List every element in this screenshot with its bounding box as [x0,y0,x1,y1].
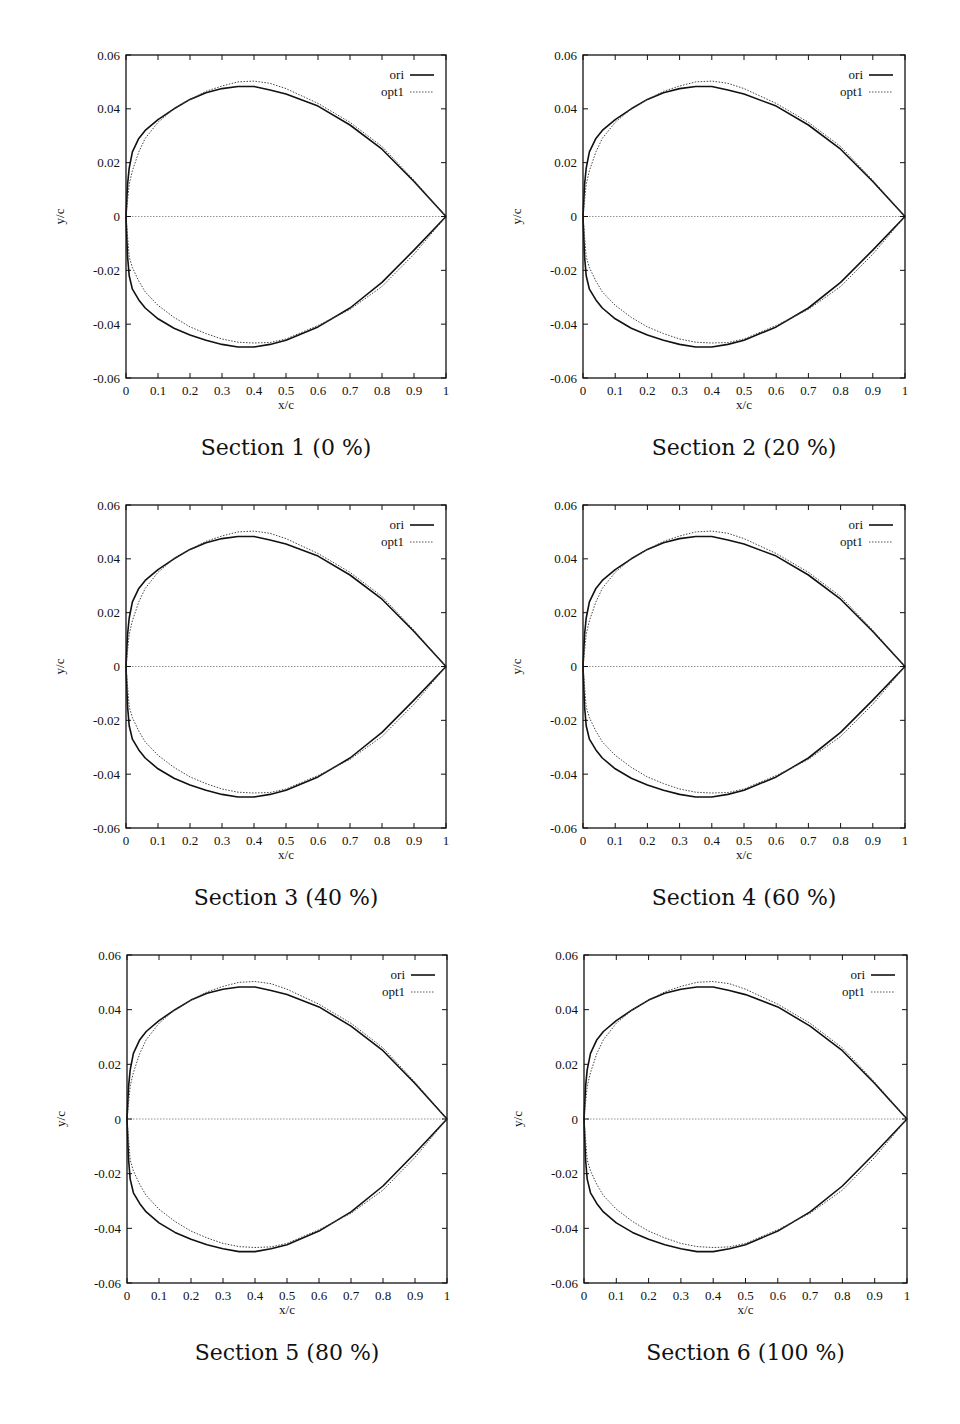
x-axis-label: x/c [279,1302,295,1317]
y-tick-label: -0.06 [550,821,578,836]
y-tick-label: 0.04 [97,551,120,566]
legend-label: ori [390,517,405,532]
x-tick-label: 0.8 [375,1288,391,1303]
legend-label: opt1 [382,984,405,999]
x-tick-label: 0.4 [246,383,263,398]
y-tick-label: -0.04 [93,767,121,782]
legend-label: ori [391,967,406,982]
series-opt1-upper [583,531,905,666]
legend-label: ori [390,67,405,82]
x-tick-label: 0 [580,833,587,848]
chart-caption: Section 1 (0 %) [201,435,372,460]
series-opt1-upper [584,982,907,1120]
x-tick-label: 0.3 [215,1288,231,1303]
chart-panel: 00.10.20.30.40.50.60.70.80.910.060.040.0… [52,48,449,461]
x-tick-label: 0.8 [832,833,848,848]
y-tick-label: 0 [572,1112,579,1127]
y-tick-label: -0.04 [550,767,578,782]
x-tick-label: 0.2 [182,383,198,398]
series-opt1-lower [583,217,905,344]
x-tick-label: 0.9 [865,383,881,398]
y-tick-label: 0.04 [554,101,577,116]
y-tick-label: 0.02 [555,1057,578,1072]
y-tick-label: -0.02 [93,263,120,278]
y-tick-label: -0.06 [550,371,578,386]
series-ori-upper [583,87,905,217]
y-tick-label: 0 [571,209,578,224]
y-axis-label: y/c [509,208,524,224]
y-tick-label: 0.06 [98,948,121,963]
y-tick-label: 0.06 [554,498,577,513]
x-tick-label: 0.7 [800,383,817,398]
x-tick-label: 1 [902,383,909,398]
series-opt1-lower [127,1119,447,1248]
x-tick-label: 0.5 [279,1288,295,1303]
y-tick-label: -0.04 [93,317,121,332]
x-tick-label: 0.2 [182,833,198,848]
series-opt1-upper [126,531,446,666]
x-tick-label: 0.1 [150,383,166,398]
x-tick-label: 0.1 [151,1288,167,1303]
y-tick-label: 0.06 [554,48,577,63]
x-tick-label: 0.4 [704,833,721,848]
x-tick-label: 0.8 [374,833,390,848]
x-tick-label: 0.1 [607,383,623,398]
y-axis-label: y/c [52,208,67,224]
x-tick-label: 0.3 [671,383,687,398]
figure: 00.10.20.30.40.50.60.70.80.910.060.040.0… [0,0,960,1424]
y-tick-label: -0.06 [94,1276,122,1291]
legend-label: ori [851,967,866,982]
chart-panel: 00.10.20.30.40.50.60.70.80.910.060.040.0… [510,948,910,1366]
x-tick-label: 0 [581,1288,588,1303]
series-opt1-upper [126,81,446,216]
y-tick-label: 0.06 [555,948,578,963]
y-tick-label: 0.02 [97,605,120,620]
series-ori-upper [127,987,447,1119]
series-ori-upper [126,87,446,217]
x-tick-label: 0.4 [704,383,721,398]
series-ori-upper [584,987,907,1119]
x-tick-label: 0.6 [768,383,785,398]
y-tick-label: 0.02 [554,605,577,620]
x-tick-label: 0.1 [607,833,623,848]
y-axis-label: y/c [509,658,524,674]
x-tick-label: 0.6 [768,833,785,848]
x-tick-label: 0.8 [834,1288,850,1303]
x-tick-label: 0.3 [671,833,687,848]
x-tick-label: 0.9 [867,1288,883,1303]
x-axis-label: x/c [738,1302,754,1317]
x-tick-label: 0.7 [343,1288,360,1303]
x-tick-label: 0.7 [802,1288,819,1303]
x-tick-label: 0 [123,833,130,848]
x-tick-label: 0.5 [278,833,294,848]
y-tick-label: -0.02 [550,263,577,278]
x-tick-label: 0.9 [406,383,422,398]
y-tick-label: 0.04 [555,1002,578,1017]
x-tick-label: 0.9 [406,833,422,848]
y-axis-label: y/c [52,658,67,674]
x-tick-label: 0.3 [673,1288,689,1303]
legend-label: opt1 [842,984,865,999]
legend-label: ori [849,67,864,82]
y-tick-label: -0.02 [94,1166,121,1181]
x-tick-label: 0.5 [278,383,294,398]
legend-label: opt1 [381,534,404,549]
x-tick-label: 0 [123,383,130,398]
x-axis-label: x/c [278,397,294,412]
x-tick-label: 0.1 [150,833,166,848]
x-tick-label: 0.3 [214,833,230,848]
chart-caption: Section 2 (20 %) [652,435,837,460]
x-tick-label: 0.6 [310,383,327,398]
series-opt1-upper [583,81,905,216]
y-tick-label: 0.02 [98,1057,121,1072]
y-tick-label: 0.04 [554,551,577,566]
y-tick-label: -0.06 [93,821,121,836]
series-opt1-upper [127,982,447,1120]
series-opt1-lower [126,217,446,344]
series-ori-lower [127,1119,447,1252]
y-tick-label: 0 [114,209,121,224]
series-ori-lower [126,217,446,348]
x-tick-label: 0.2 [639,833,655,848]
x-tick-label: 0.8 [374,383,390,398]
y-tick-label: 0 [115,1112,122,1127]
